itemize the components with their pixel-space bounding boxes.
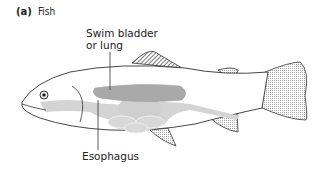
tail-fin	[262, 62, 307, 120]
swim-bladder	[93, 84, 185, 101]
pelvic-fin	[150, 128, 176, 146]
fish-illustration	[0, 0, 320, 174]
